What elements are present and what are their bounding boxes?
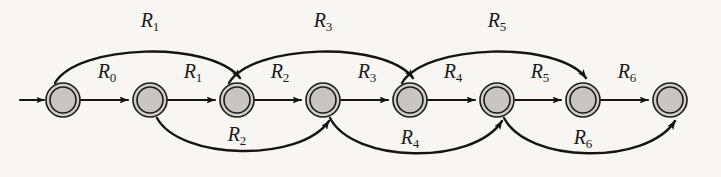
edge-label-q5-q6: R5 [530,60,550,85]
edge-arc-q0-q2 [55,52,240,83]
node-q4[interactable] [393,83,427,117]
edge-label-arc-q4-q6: R5 [487,9,507,34]
edge-arc-above-group [55,52,586,83]
node-q0[interactable] [46,83,80,117]
state-diagram-canvas: R0 R1 R2 R3 R4 R5 R6 R1 [0,0,721,177]
node-q3[interactable] [306,83,340,117]
edge-label-group: R0 R1 R2 R3 R4 R5 R6 R1 [97,9,637,151]
edge-label-q2-q3: R2 [270,60,290,85]
edge-label-arc-q1-q3: R2 [227,123,247,148]
edge-label-q6-q7: R6 [617,60,637,85]
edge-label-arc-q0-q2: R1 [140,9,160,34]
edge-label-q1-q2: R1 [183,60,203,85]
node-q2[interactable] [220,83,254,117]
node-q7[interactable] [653,83,687,117]
state-diagram-figure: R0 R1 R2 R3 R4 R5 R6 R1 [0,0,721,177]
node-q5[interactable] [480,83,514,117]
edge-label-q0-q1: R0 [97,60,117,85]
edge-label-arc-q2-q4: R3 [313,9,333,34]
node-q6[interactable] [566,83,600,117]
edge-arc-q2-q4 [229,52,413,83]
edge-label-arc-q3-q5: R4 [400,126,420,151]
edge-arc-q4-q6 [402,52,586,83]
edge-label-q3-q4: R3 [357,60,377,85]
edge-label-q4-q5: R4 [443,60,463,85]
edge-label-arc-q5-q7: R6 [573,126,593,151]
node-q1[interactable] [133,83,167,117]
